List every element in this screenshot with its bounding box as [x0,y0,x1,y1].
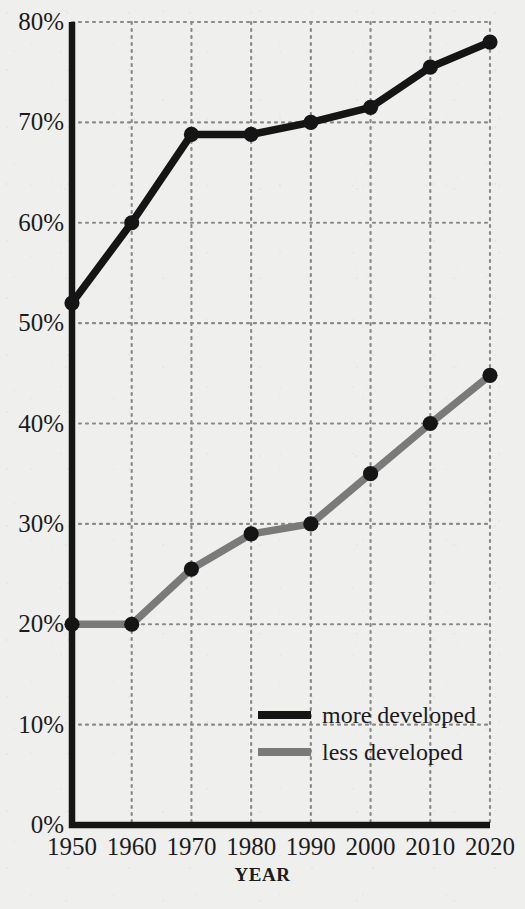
legend-label-more-developed: more developed [322,703,476,727]
x-axis-title: YEAR [0,864,525,886]
x-axis-tick-2020: 2020 [465,833,515,861]
y-axis-tick-80pct: 80% [18,8,64,36]
y-axis-tick-40pct: 40% [18,410,64,438]
chart-container: 0%10%20%30%40%50%60%70%80% 1950196019701… [0,0,525,909]
x-axis-tick-1970: 1970 [166,833,216,861]
legend-swatch-more-developed [258,711,311,719]
series-lines [72,42,490,624]
x-axis-tick-1950: 1950 [47,833,97,861]
legend-item-more-developed: more developed [258,700,476,730]
y-axis-tick-10pct: 10% [18,711,64,739]
legend-swatch-less-developed [258,748,311,756]
x-axis-tick-1980: 1980 [226,833,276,861]
legend-label-less-developed: less developed [322,740,463,764]
x-axis-tick-1960: 1960 [107,833,157,861]
x-axis-tick-1990: 1990 [286,833,336,861]
chart-legend: more developed less developed [258,700,476,767]
y-axis-tick-50pct: 50% [18,309,64,337]
y-axis-tick-60pct: 60% [18,209,64,237]
y-axis-tick-20pct: 20% [18,610,64,638]
legend-item-less-developed: less developed [258,737,476,767]
x-axis-tick-labels: 19501960197019801990200020102020 [0,833,525,867]
x-axis-tick-2010: 2010 [405,833,455,861]
y-axis-tick-70pct: 70% [18,108,64,136]
series-markers [64,34,497,631]
y-axis-tick-30pct: 30% [18,510,64,538]
line-chart-plot [0,0,525,909]
x-axis-tick-2000: 2000 [346,833,396,861]
y-axis-tick-labels: 0%10%20%30%40%50%60%70%80% [0,0,64,909]
